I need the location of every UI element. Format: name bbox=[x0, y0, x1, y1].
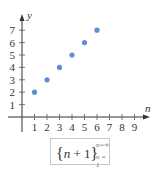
x-tick-label: 1 bbox=[32, 121, 38, 133]
y-tick-label: 7 bbox=[10, 24, 16, 36]
x-tick-label: 8 bbox=[119, 121, 125, 133]
data-points bbox=[32, 28, 100, 95]
sequence-formula-box: {n + 1} n=∞ n = 1 bbox=[50, 138, 110, 165]
scatter-chart: n y 123456789 1234567 bbox=[0, 0, 164, 135]
y-axis-label: y bbox=[26, 9, 32, 21]
x-tick-label: 2 bbox=[44, 121, 50, 133]
data-point bbox=[44, 77, 49, 82]
y-axis-arrow-icon bbox=[20, 14, 25, 21]
formula-lower-limit: n = 1 bbox=[96, 153, 109, 169]
y-tick-label: 3 bbox=[10, 74, 16, 86]
x-tick-label: 5 bbox=[82, 121, 88, 133]
x-tick-label: 9 bbox=[132, 121, 138, 133]
open-brace: { bbox=[56, 145, 64, 162]
data-point bbox=[82, 40, 87, 45]
formula-operator: + 1 bbox=[70, 146, 90, 161]
data-point bbox=[32, 90, 37, 95]
data-point bbox=[94, 28, 99, 33]
x-axis-arrow-icon bbox=[143, 115, 150, 120]
x-tick-label: 7 bbox=[107, 121, 113, 133]
x-tick-label: 3 bbox=[57, 121, 63, 133]
sequence-formula: {n + 1} bbox=[56, 144, 98, 162]
y-tick-label: 2 bbox=[10, 86, 16, 98]
data-point bbox=[69, 52, 74, 57]
y-tick-label: 1 bbox=[10, 99, 16, 111]
y-ticks: 1234567 bbox=[10, 24, 26, 110]
x-tick-label: 6 bbox=[94, 121, 100, 133]
y-tick-label: 6 bbox=[10, 37, 16, 49]
y-tick-label: 5 bbox=[10, 49, 16, 61]
x-axis-label: n bbox=[145, 102, 151, 114]
y-tick-label: 4 bbox=[10, 61, 16, 73]
data-point bbox=[57, 65, 62, 70]
formula-upper-limit: n=∞ bbox=[96, 141, 109, 149]
x-tick-label: 4 bbox=[69, 121, 75, 133]
